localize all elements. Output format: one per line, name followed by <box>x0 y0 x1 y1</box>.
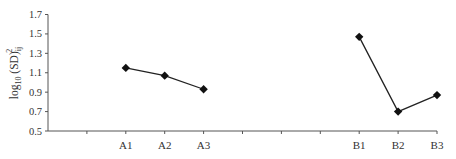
diamond-marker-a3 <box>199 85 207 93</box>
x-tick-label: A3 <box>197 139 211 151</box>
y-tick-label: 0.9 <box>29 87 42 98</box>
line-chart: 0.50.70.91.11.31.51.7 A1A2A3B1B2B3 log10… <box>0 0 456 159</box>
diamond-marker-a1 <box>122 64 130 72</box>
y-tick-label: 1.1 <box>29 67 42 78</box>
series-line-b <box>359 37 437 112</box>
diamond-marker-a2 <box>161 71 169 79</box>
y-axis: 0.50.70.91.11.31.51.7 <box>29 9 48 137</box>
y-tick-label: 0.7 <box>29 106 42 117</box>
y-tick-label: 1.3 <box>29 48 42 59</box>
x-tick-label: A2 <box>158 139 171 151</box>
x-tick-label: B1 <box>353 139 366 151</box>
x-tick-label: B3 <box>431 139 444 151</box>
y-tick-label: 0.5 <box>29 126 42 137</box>
y-tick-label: 1.5 <box>29 28 42 39</box>
y-tick-label: 1.7 <box>29 9 42 20</box>
diamond-marker-b1 <box>355 33 363 41</box>
diamond-marker-b3 <box>433 91 441 99</box>
series-group <box>122 33 442 116</box>
x-axis: A1A2A3B1B2B3 <box>48 131 444 151</box>
x-tick-label: A1 <box>119 139 132 151</box>
x-tick-label: B2 <box>392 139 405 151</box>
diamond-marker-b2 <box>394 107 402 115</box>
y-axis-label: log10 (SD)ij2 <box>5 47 23 99</box>
